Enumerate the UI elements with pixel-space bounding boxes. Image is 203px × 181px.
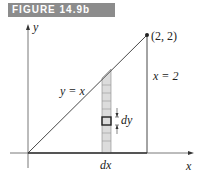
- dx-label: dx: [100, 158, 112, 172]
- line-y-equals-x: [28, 35, 147, 153]
- integration-strip: [102, 69, 111, 153]
- line-label: y = x: [59, 84, 85, 98]
- y-axis-label: y: [32, 20, 39, 34]
- x-axis-label: x: [185, 159, 192, 173]
- dy-label: dy: [121, 113, 133, 127]
- vertical-line-label: x = 2: [152, 69, 178, 83]
- x-axis-arrow-icon: [188, 151, 194, 155]
- y-axis-arrow-icon: [26, 24, 30, 30]
- point-2-2: [145, 33, 149, 37]
- region-diagram: y x (2, 2) y = x x = 2 dx dy: [0, 0, 203, 181]
- point-label: (2, 2): [151, 29, 177, 43]
- dy-marker: [115, 108, 119, 134]
